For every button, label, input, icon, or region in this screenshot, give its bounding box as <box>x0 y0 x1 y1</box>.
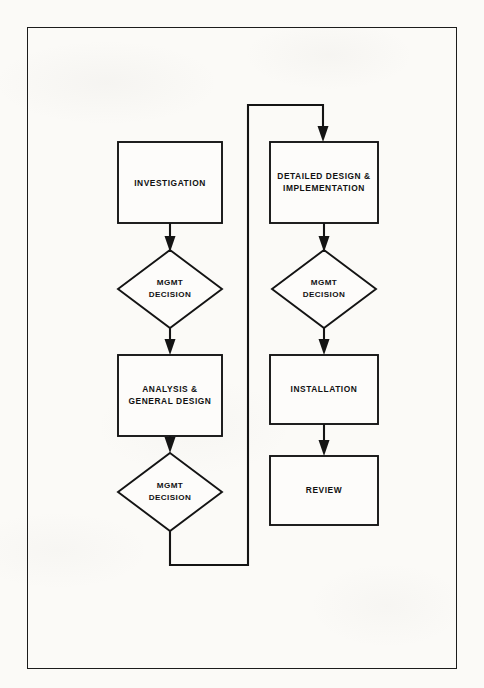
node-mgmt-decision-1[interactable]: MGMT DECISION <box>118 250 222 328</box>
node-mgmt-decision-2-label-line2: DECISION <box>149 493 192 502</box>
node-investigation-label: INVESTIGATION <box>134 178 206 188</box>
node-mgmt-decision-3-label-line2: DECISION <box>303 290 346 299</box>
node-mgmt-decision-3-label-line1: MGMT <box>311 278 338 287</box>
node-analysis-general-design-label-line2: GENERAL DESIGN <box>129 396 212 406</box>
edge-decision3-to-installation <box>319 328 330 355</box>
node-analysis-general-design[interactable]: ANALYSIS & GENERAL DESIGN <box>118 355 222 436</box>
node-mgmt-decision-3[interactable]: MGMT DECISION <box>272 250 376 328</box>
flowchart-canvas: INVESTIGATION MGMT DECISION ANALYSIS & G… <box>0 0 484 688</box>
node-installation-label: INSTALLATION <box>291 384 358 394</box>
node-mgmt-decision-1-label-line2: DECISION <box>149 290 192 299</box>
node-detailed-design-implementation-label-line1: DETAILED DESIGN & <box>277 171 370 181</box>
edge-detailed-design-to-decision3 <box>319 223 330 252</box>
node-mgmt-decision-2-label-line1: MGMT <box>157 481 184 490</box>
node-detailed-design-implementation[interactable]: DETAILED DESIGN & IMPLEMENTATION <box>270 142 378 223</box>
node-mgmt-decision-1-label-line1: MGMT <box>157 278 184 287</box>
node-review-label: REVIEW <box>306 485 342 495</box>
node-installation[interactable]: INSTALLATION <box>270 355 378 424</box>
edge-installation-to-review <box>319 424 330 456</box>
edge-investigation-to-decision1 <box>165 223 176 252</box>
node-review[interactable]: REVIEW <box>270 456 378 525</box>
node-detailed-design-implementation-label-line2: IMPLEMENTATION <box>283 183 365 193</box>
node-mgmt-decision-2[interactable]: MGMT DECISION <box>118 453 222 531</box>
node-analysis-general-design-label-line1: ANALYSIS & <box>142 384 197 394</box>
node-investigation[interactable]: INVESTIGATION <box>118 142 222 223</box>
edge-decision1-to-analysis <box>165 328 176 355</box>
flowchart-page: INVESTIGATION MGMT DECISION ANALYSIS & G… <box>0 0 484 688</box>
edge-analysis-to-decision2 <box>165 436 176 453</box>
